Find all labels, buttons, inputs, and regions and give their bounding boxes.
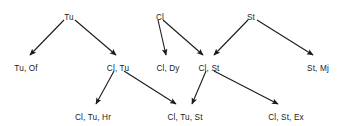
node-tu: Tu <box>64 13 74 22</box>
edge-arrow-cl_st-to-cl_st_ex <box>214 71 278 104</box>
edge-arrow-cl_tu-to-cl_tu_st <box>124 71 176 104</box>
node-cl_dy: Cl, Dy <box>156 64 179 73</box>
edge-layer <box>0 0 344 126</box>
node-cl_tu_hr: Cl, Tu, Hr <box>75 113 111 122</box>
node-st_mj: St, Mj <box>307 64 329 73</box>
edge-arrow-cl_st-to-cl_tu_st <box>192 71 206 104</box>
edge-arrow-cl_tu-to-cl_tu_hr <box>96 71 114 104</box>
edge-arrow-cl-to-cl_dy <box>158 20 166 55</box>
node-st: St <box>247 13 255 22</box>
edge-arrow-st-to-cl_st <box>214 20 248 55</box>
node-cl_st: Cl, St <box>199 64 220 73</box>
edge-arrow-tu-to-tu_of <box>30 20 64 55</box>
node-cl: Cl <box>156 13 164 22</box>
concept-lattice-diagram: TuClStTu, OfCl, TuCl, DyCl, StSt, MjCl, … <box>0 0 344 126</box>
node-tu_of: Tu, Of <box>14 64 37 73</box>
edges-group <box>30 20 313 104</box>
node-cl_tu: Cl, Tu <box>107 64 129 73</box>
node-cl_st_ex: Cl, St, Ex <box>268 113 304 122</box>
edge-arrow-st-to-st_mj <box>257 20 313 55</box>
node-cl_tu_st: Cl, Tu, St <box>167 113 202 122</box>
edge-arrow-tu-to-cl_tu <box>75 20 116 55</box>
edge-arrow-cl-to-cl_st <box>163 20 203 55</box>
